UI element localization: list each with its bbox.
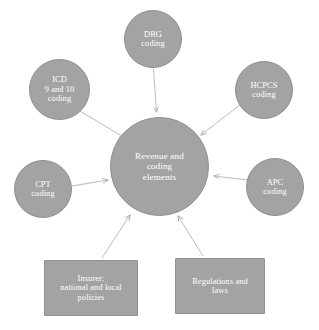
node-drg-coding-label: DRG coding bbox=[138, 30, 167, 49]
edge-insurer-to-center bbox=[102, 215, 130, 258]
center-node-revenue-and-coding-elements[interactable]: Revenue and coding elements bbox=[110, 117, 209, 216]
node-regulations-and-laws-label: Regulations and laws bbox=[189, 277, 251, 296]
node-icd-9-and-10-coding[interactable]: ICD 9 and 10 coding bbox=[29, 59, 90, 120]
edge-cpt-to-center bbox=[72, 180, 108, 186]
node-regulations-and-laws[interactable]: Regulations and laws bbox=[175, 258, 265, 314]
node-insurer-label: Insurer: national and local policies bbox=[57, 274, 124, 302]
node-cpt-coding-label: CPT coding bbox=[28, 180, 57, 199]
center-node-label: Revenue and coding elements bbox=[132, 151, 187, 182]
node-apc-coding-label: APC coding bbox=[260, 178, 289, 197]
node-drg-coding[interactable]: DRG coding bbox=[124, 10, 182, 68]
node-cpt-coding[interactable]: CPT coding bbox=[14, 160, 72, 218]
edge-drg-to-center bbox=[154, 69, 157, 112]
edge-apc-to-center bbox=[214, 176, 248, 180]
edge-icd-to-center bbox=[80, 111, 125, 138]
node-apc-coding[interactable]: APC coding bbox=[246, 158, 304, 216]
node-insurer-national-and-local-policies[interactable]: Insurer: national and local policies bbox=[44, 260, 138, 316]
node-icd-9-and-10-coding-label: ICD 9 and 10 coding bbox=[42, 75, 78, 103]
diagram-canvas: Revenue and coding elements DRG coding I… bbox=[0, 0, 319, 330]
edge-hcpcs-to-center bbox=[201, 104, 241, 135]
edge-regulations-to-center bbox=[178, 216, 203, 256]
node-hcpcs-coding[interactable]: HCPCS coding bbox=[235, 61, 293, 119]
node-hcpcs-coding-label: HCPCS coding bbox=[247, 81, 280, 100]
